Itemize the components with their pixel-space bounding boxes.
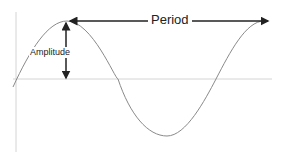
wave-diagram (0, 0, 281, 162)
amplitude-label: Amplitude (29, 47, 71, 58)
period-label: Period (148, 12, 192, 28)
